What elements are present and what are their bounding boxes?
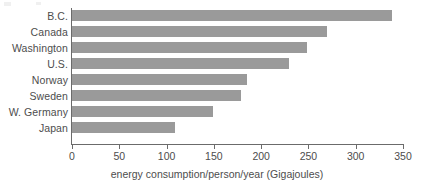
plot-area bbox=[72, 8, 403, 136]
x-axis-tick-label: 300 bbox=[336, 150, 376, 162]
category-label: B.C. bbox=[0, 8, 68, 24]
bar bbox=[72, 90, 241, 101]
x-axis-tick bbox=[119, 145, 120, 149]
category-label: Canada bbox=[0, 24, 68, 40]
bar bbox=[72, 74, 247, 85]
x-axis-tick bbox=[167, 145, 168, 149]
x-axis-line bbox=[71, 144, 404, 145]
category-label: U.S. bbox=[0, 56, 68, 72]
bar bbox=[72, 42, 307, 53]
x-axis-tick bbox=[214, 145, 215, 149]
x-axis-tick-label: 200 bbox=[241, 150, 281, 162]
category-label: Japan bbox=[0, 120, 68, 136]
x-axis-tick-label: 150 bbox=[194, 150, 234, 162]
category-axis: B.C.CanadaWashingtonU.S.NorwaySwedenW. G… bbox=[0, 8, 68, 136]
category-label: Norway bbox=[0, 72, 68, 88]
x-axis-tick-label: 50 bbox=[99, 150, 139, 162]
x-axis-tick bbox=[72, 145, 73, 149]
x-axis-tick-label: 350 bbox=[383, 150, 423, 162]
category-label: Sweden bbox=[0, 88, 68, 104]
x-axis-tick-label: 0 bbox=[52, 150, 92, 162]
y-axis-line bbox=[71, 8, 72, 144]
bar bbox=[72, 26, 327, 37]
bar-chart: B.C.CanadaWashingtonU.S.NorwaySwedenW. G… bbox=[0, 0, 434, 191]
category-label: W. Germany bbox=[0, 104, 68, 120]
x-axis-tick bbox=[356, 145, 357, 149]
bar bbox=[72, 10, 392, 21]
bar bbox=[72, 122, 175, 133]
x-axis-tick bbox=[261, 145, 262, 149]
scan-artifact bbox=[4, 2, 11, 6]
x-axis-tick bbox=[308, 145, 309, 149]
bar bbox=[72, 58, 289, 69]
category-label: Washington bbox=[0, 40, 68, 56]
x-axis-tick-label: 250 bbox=[288, 150, 328, 162]
scan-artifact bbox=[36, 2, 41, 5]
bar bbox=[72, 106, 213, 117]
x-axis-tick-label: 100 bbox=[147, 150, 187, 162]
x-axis-title: energy consumption/person/year (Gigajoul… bbox=[0, 168, 434, 180]
x-axis-tick bbox=[403, 145, 404, 149]
